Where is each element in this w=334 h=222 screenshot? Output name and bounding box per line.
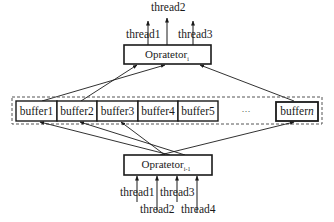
buffer3-label: buffer3 bbox=[101, 105, 135, 117]
buffer2-to-op-i-arrow bbox=[81, 65, 137, 101]
op-i-1-to-buffern-arrow bbox=[160, 122, 294, 155]
buffern-suffix: n bbox=[308, 105, 314, 117]
operator-i-1-name: Opratetor bbox=[142, 158, 184, 170]
bottom-thread3-label: thread3 bbox=[160, 186, 195, 198]
operator-i-1-subscript: i-1 bbox=[184, 166, 191, 172]
op-i-1-to-buffer2-arrow bbox=[80, 122, 185, 155]
operator-i-1-to-buffer-arrows bbox=[40, 122, 294, 155]
buffern-prefix: buffer bbox=[280, 105, 308, 117]
op-i-1-to-buffer3-arrow bbox=[121, 122, 165, 155]
operator-i-name: Opratetor bbox=[145, 48, 187, 60]
buffer-row: buffer1 buffer2 buffer3 buffer4 buffer5 … bbox=[16, 101, 318, 121]
operator-i-box: Opratetori bbox=[124, 45, 211, 64]
top-thread1-label: thread1 bbox=[126, 28, 161, 40]
operator-i-1-box: Opratetori-1 bbox=[124, 155, 212, 175]
svg-text:buffern: buffern bbox=[280, 105, 314, 117]
svg-text:Opratetori-1: Opratetori-1 bbox=[142, 158, 191, 172]
buffer1-label: buffer1 bbox=[20, 105, 54, 117]
bottom-thread2-label: thread2 bbox=[140, 203, 175, 215]
buffer4-label: buffer4 bbox=[141, 105, 175, 117]
buffer5-label: buffer5 bbox=[181, 105, 215, 117]
svg-text:Opratetori: Opratetori bbox=[145, 48, 189, 62]
buffern-to-op-i-arrow bbox=[200, 65, 294, 101]
buffer-to-operator-i-arrows bbox=[42, 65, 294, 101]
diagram-canvas: thread1 thread2 thread3 Opratetori buffe… bbox=[0, 0, 334, 222]
buffer1-to-op-i-arrow bbox=[42, 65, 165, 101]
top-thread3-label: thread3 bbox=[178, 28, 213, 40]
buffer2-label: buffer2 bbox=[60, 105, 94, 117]
buffer-ellipsis: ··· bbox=[242, 106, 251, 116]
op-i-1-to-buffer1-arrow bbox=[40, 122, 170, 155]
top-thread2-label: thread2 bbox=[151, 1, 186, 13]
bottom-thread4-label: thread4 bbox=[181, 203, 216, 215]
bottom-thread1-label: thread1 bbox=[120, 186, 155, 198]
